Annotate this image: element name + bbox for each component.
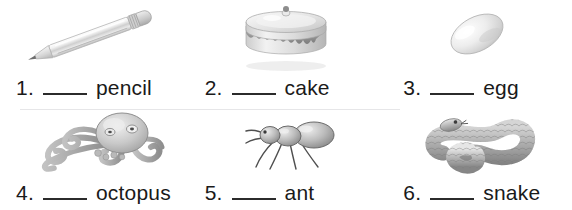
item-number: 5.	[191, 181, 223, 205]
answer-blank[interactable]	[232, 79, 276, 95]
item-number: 3.	[381, 76, 421, 100]
worksheet-item-label: 2. cake	[191, 76, 382, 100]
worksheet: 1. pencil	[0, 0, 572, 210]
worksheet-item-5: 5. ant	[191, 105, 382, 210]
worksheet-item-label: 4. octopus	[0, 181, 191, 205]
answer-blank[interactable]	[43, 79, 87, 95]
worksheet-item-label: 5. ant	[191, 181, 382, 205]
worksheet-row-1: 1. pencil	[0, 0, 572, 105]
worksheet-item-4: 4. octopus	[0, 105, 191, 210]
worksheet-item-6: 6. snake	[381, 105, 572, 210]
worksheet-item-label: 1. pencil	[0, 76, 191, 100]
octopus-image	[0, 105, 191, 177]
item-word: egg	[483, 76, 519, 100]
item-number: 4.	[0, 181, 34, 205]
cake-image	[191, 0, 382, 72]
item-word: ant	[285, 181, 315, 205]
item-number: 2.	[191, 76, 223, 100]
worksheet-item-1: 1. pencil	[0, 0, 191, 105]
worksheet-item-2: 2. cake	[191, 0, 382, 105]
item-word: snake	[483, 181, 540, 205]
worksheet-item-3: 3. egg	[381, 0, 572, 105]
item-word: pencil	[96, 76, 152, 100]
worksheet-item-label: 6. snake	[381, 181, 572, 205]
pencil-image	[0, 0, 191, 72]
worksheet-row-2: 4. octopus	[0, 105, 572, 210]
item-number: 6.	[381, 181, 421, 205]
item-number: 1.	[0, 76, 34, 100]
worksheet-item-label: 3. egg	[381, 76, 572, 100]
item-word: octopus	[96, 181, 171, 205]
answer-blank[interactable]	[43, 184, 87, 200]
egg-image	[381, 0, 572, 72]
answer-blank[interactable]	[232, 184, 276, 200]
answer-blank[interactable]	[430, 184, 474, 200]
snake-image	[381, 105, 572, 177]
item-word: cake	[285, 76, 330, 100]
answer-blank[interactable]	[430, 79, 474, 95]
ant-image	[191, 105, 382, 177]
